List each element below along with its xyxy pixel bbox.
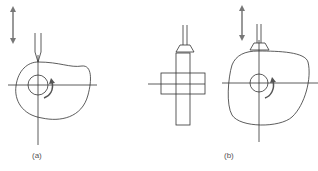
panel-a-label: (a): [32, 151, 42, 160]
panel-b-side-view: [148, 25, 205, 125]
panel-b-label: (b): [224, 151, 234, 160]
cam-profile-b: [228, 51, 309, 125]
reciprocating-arrow-icon: [10, 6, 16, 44]
rotation-arrow-icon: [265, 81, 274, 98]
shaft-side-rect: [161, 73, 205, 94]
reciprocating-arrow-icon: [239, 5, 245, 41]
cam-profile-a: [16, 62, 91, 119]
panel-b-front-view: [222, 5, 318, 142]
panel-a: [8, 6, 97, 145]
flat-face-follower-side: [176, 45, 194, 52]
flat-face-follower-front: [250, 43, 269, 50]
cam-follower-diagram: [0, 0, 318, 171]
cam-side-rect: [176, 53, 190, 125]
